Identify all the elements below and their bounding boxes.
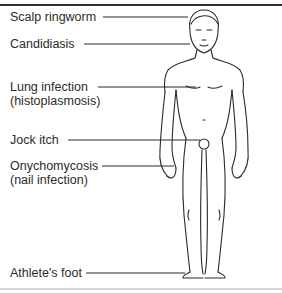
left-leg-inner (201, 150, 203, 274)
right-leg-inner (205, 150, 207, 274)
torso-left (176, 90, 186, 138)
human-figure-illustration (0, 0, 282, 293)
left-shoulder (164, 50, 197, 92)
right-shoulder (211, 50, 244, 92)
torso-right (222, 90, 232, 138)
knees (188, 210, 220, 220)
right-hand (232, 168, 241, 178)
left-leg-outer (183, 138, 190, 272)
right-arm-inner (232, 90, 236, 168)
left-hand (167, 168, 176, 178)
face (196, 30, 212, 46)
bottom-rule (0, 288, 282, 290)
left-arm-inner (172, 90, 176, 168)
hair (191, 16, 218, 24)
body-outline (160, 10, 248, 278)
left-foot (183, 272, 203, 278)
groin-hair (199, 139, 209, 149)
leader-lines (68, 17, 200, 273)
right-leg-outer (218, 138, 225, 272)
right-foot (205, 272, 225, 278)
left-arm-outer (160, 92, 167, 176)
right-arm-outer (241, 92, 248, 176)
